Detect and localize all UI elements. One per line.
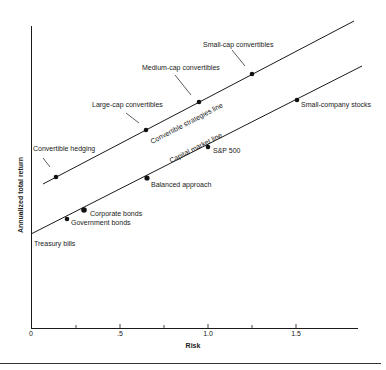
label-small-cap-convertibles: Small-cap convertibles [203,41,274,49]
point-balanced-approach [144,175,149,180]
label-large-cap-convertibles: Large-cap convertibles [92,101,163,109]
label-small-company-stocks: Small-company stocks [301,101,372,109]
risk-return-chart: 0 .5 1.0 1.5 Risk Annualized total retur… [0,0,386,370]
x-ticks [76,324,296,328]
label-medium-cap-convertibles: Medium-cap convertibles [142,64,220,72]
label-government-bonds: Government bonds [71,219,131,226]
label-corporate-bonds: Corporate bonds [90,210,143,218]
point-sp500 [206,145,211,150]
x-tick-label: 0 [29,330,33,337]
point-convertible-hedging [54,175,59,180]
x-tick-label: 1.0 [203,330,213,337]
x-tick-label: 1.5 [291,330,301,337]
point-large-cap-convertibles [144,128,149,133]
label-sp500: S&P 500 [213,147,241,154]
x-axis-title: Risk [186,342,201,349]
y-axis-title: Annualized total return [17,157,24,233]
label-balanced-approach: Balanced approach [151,181,211,189]
point-corporate-bonds [81,207,87,213]
x-tick-label: .5 [117,330,123,337]
label-convertible-hedging: Convertible hedging [33,145,95,153]
point-medium-cap-convertibles [197,100,202,105]
point-small-cap-convertibles [250,72,255,77]
point-small-company-stocks [295,98,300,103]
label-treasury-bills: Treasury bills [34,240,76,248]
point-government-bonds [65,217,70,222]
